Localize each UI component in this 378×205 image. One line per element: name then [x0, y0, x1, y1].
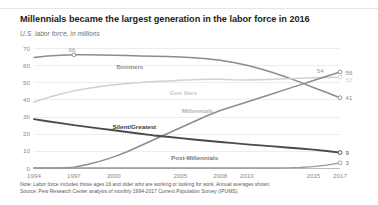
x-axis-tick-label: 1997: [67, 172, 81, 179]
series-endpoint-marker: [338, 151, 342, 155]
y-axis-tick-label: 70: [10, 45, 30, 52]
series-endpoint-marker: [338, 75, 342, 79]
series-peak-marker: [72, 53, 76, 57]
top-divider: [0, 8, 378, 9]
series-endpoint-marker: [338, 161, 342, 165]
x-axis-tick-label: 2000: [107, 172, 121, 179]
note-line: Note: Labor force includes those ages 16…: [20, 181, 370, 188]
series-label-post-millennials: Post-Millennials: [171, 154, 218, 161]
y-axis-tick-label: 60: [10, 62, 30, 69]
series-label-boomers: Boomers: [116, 63, 143, 70]
y-axis-tick-label: 50: [10, 79, 30, 86]
y-axis-tick-label: 30: [10, 113, 30, 120]
footnotes: Note: Labor force includes those ages 16…: [20, 181, 370, 194]
end-value-post-millennials: 3: [346, 159, 349, 166]
x-axis-tick-label: 2010: [240, 172, 254, 179]
end-value-boomers: 41: [346, 94, 353, 101]
end-value-millennials: 56: [346, 69, 353, 76]
end-value-gen-xers: 53: [346, 76, 353, 83]
end-value-silent-greatest: 9: [346, 149, 349, 156]
x-axis-tick-label: 2017: [333, 172, 347, 179]
x-axis-tick-label: 2005: [173, 172, 187, 179]
peak-value-boomers: 66: [69, 46, 76, 53]
series-label-silent-greatest: Silent/Greatest: [112, 123, 156, 130]
y-axis-tick-label: 0: [10, 165, 30, 172]
x-axis-tick-label: 2008: [213, 172, 227, 179]
chart-page: Millennials became the largest generatio…: [0, 0, 378, 205]
y-axis-tick-label: 40: [10, 96, 30, 103]
y-axis-tick-label: 20: [10, 130, 30, 137]
chart-subtitle: U.S. labor force, in millions: [20, 30, 100, 37]
value-label-millennials-2016: 54: [317, 67, 324, 74]
series-label-gen-xers: Gen Xers: [170, 89, 197, 96]
x-axis-tick-label: 2015: [307, 172, 321, 179]
series-endpoint-marker: [338, 70, 342, 74]
x-axis-tick-label: 1994: [27, 172, 41, 179]
page-title: Millennials became the largest generatio…: [20, 14, 360, 25]
y-axis-tick-label: 10: [10, 147, 30, 154]
source-line: Source: Pew Research Center analysis of …: [20, 188, 370, 195]
series-endpoint-marker: [338, 96, 342, 100]
series-label-millennials: Millennials: [182, 107, 214, 114]
